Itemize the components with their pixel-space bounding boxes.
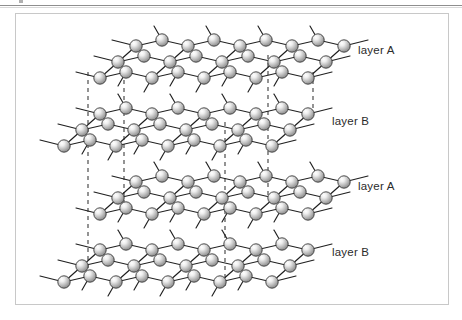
label-layer-a-lower: layer A: [358, 180, 395, 192]
layer-sheet-a-lower: [76, 162, 368, 228]
layer-sheet-b-bottom: [40, 230, 332, 296]
label-layer-a-top: layer A: [358, 44, 395, 56]
figure-root: .bond { stroke: #1f1f1f; stroke-width: 1…: [0, 0, 462, 320]
label-layer-b-bottom: layer B: [332, 246, 369, 258]
label-layer-b-upper: layer B: [332, 115, 369, 127]
layer-sheet-b-upper: [40, 94, 332, 160]
layer-sheet-a-top: [76, 26, 368, 92]
